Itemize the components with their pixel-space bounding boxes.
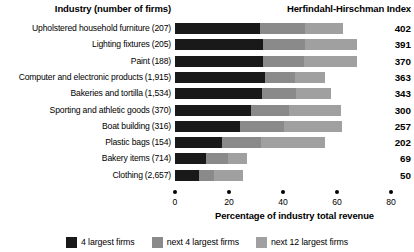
chart-legend: 4 largest firmsnext 4 largest firmsnext …	[0, 234, 414, 250]
x-tick-dot	[335, 190, 339, 194]
industry-name: Bakeries and tortilla	[70, 88, 142, 98]
hhi-industry-concentration-chart: Industry (number of firms) Herfindahl-Hi…	[0, 0, 414, 252]
hhi-value: 391	[300, 38, 414, 51]
industry-name: Plastic bags	[105, 137, 150, 147]
industry-label: Sporting and athletic goods(370)	[0, 104, 171, 117]
industry-label: Bakeries and tortilla(1,534)	[0, 87, 171, 100]
bar-segment-1	[175, 39, 263, 50]
legend-label: next 4 largest firms	[167, 237, 239, 247]
industry-label: Lighting fixtures(205)	[0, 38, 171, 51]
stacked-bar	[175, 170, 243, 181]
industry-label: Upholstered household furniture(207)	[0, 22, 171, 35]
bar-segment-1	[175, 23, 260, 34]
legend-item-2: next 4 largest firms	[152, 237, 239, 248]
x-tick-label: 40	[263, 197, 303, 207]
bar-segment-1	[175, 170, 199, 181]
industry-label: Plastic bags(154)	[0, 136, 171, 149]
hhi-value: 202	[300, 136, 414, 149]
hhi-value: 69	[300, 152, 414, 165]
x-tick-label: 20	[209, 197, 249, 207]
industry-label: Paint(188)	[0, 55, 171, 68]
x-tick-dot	[227, 190, 231, 194]
table-row: Plastic bags(154)202	[0, 136, 414, 149]
hhi-column-header: Herfindahl-Hirschman Index	[240, 3, 414, 14]
x-axis: 020406080 Percentage of industry total r…	[0, 190, 414, 224]
legend-label: 4 largest firms	[81, 237, 135, 247]
bar-segment-2	[251, 105, 289, 116]
x-tick-dot	[281, 190, 285, 194]
industry-label: Bakery items(714)	[0, 152, 171, 165]
hhi-value: 343	[300, 87, 414, 100]
table-row: Boat building(316)257	[0, 120, 414, 133]
x-tick-label: 60	[317, 197, 357, 207]
x-tick-label: 80	[371, 197, 411, 207]
bar-segment-2	[263, 39, 305, 50]
bar-segment-1	[175, 88, 262, 99]
legend-swatch	[66, 237, 77, 248]
industry-firm-count: (714)	[152, 153, 171, 163]
industry-firm-count: (2,657)	[145, 170, 171, 180]
table-row: Clothing(2,657)50	[0, 169, 414, 182]
table-row: Lighting fixtures(205)391	[0, 38, 414, 51]
bar-segment-2	[263, 56, 304, 67]
x-axis-label: Percentage of industry total revenue	[175, 210, 414, 221]
legend-swatch	[152, 237, 163, 248]
table-row: Bakeries and tortilla(1,534)343	[0, 87, 414, 100]
x-tick-dot	[389, 190, 393, 194]
table-row: Paint(188)370	[0, 55, 414, 68]
industry-name: Clothing	[112, 170, 142, 180]
bar-segment-1	[175, 153, 206, 164]
bar-segment-2	[199, 170, 214, 181]
hhi-value: 363	[300, 71, 414, 84]
industry-name: Lighting fixtures	[92, 39, 150, 49]
industry-firm-count: (188)	[152, 56, 171, 66]
bar-segment-2	[265, 72, 295, 83]
bar-segment-1	[175, 56, 263, 67]
industry-label: Computer and electronic products(1,915)	[0, 71, 171, 84]
industry-firm-count: (370)	[152, 105, 171, 115]
bar-segment-3	[214, 170, 243, 181]
legend-swatch	[256, 237, 267, 248]
bar-segment-1	[175, 137, 222, 148]
industry-column-header: Industry (number of firms)	[0, 3, 175, 14]
hhi-value: 402	[300, 22, 414, 35]
stacked-bar	[175, 153, 247, 164]
x-tick-label: 0	[155, 197, 195, 207]
industry-name: Bakery items	[102, 153, 150, 163]
industry-name: Upholstered household furniture	[32, 23, 150, 33]
bar-segment-3	[228, 153, 247, 164]
table-row: Computer and electronic products(1,915)3…	[0, 71, 414, 84]
table-row: Upholstered household furniture(207)402	[0, 22, 414, 35]
x-tick-dot	[173, 190, 177, 194]
hhi-value: 370	[300, 55, 414, 68]
industry-firm-count: (316)	[152, 121, 171, 131]
table-row: Bakery items(714)69	[0, 152, 414, 165]
industry-firm-count: (154)	[152, 137, 171, 147]
bar-segment-2	[222, 137, 261, 148]
industry-name: Computer and electronic products	[19, 72, 143, 82]
hhi-value: 257	[300, 120, 414, 133]
industry-label: Boat building(316)	[0, 120, 171, 133]
bar-segment-1	[175, 105, 251, 116]
industry-firm-count: (205)	[152, 39, 171, 49]
bar-segment-2	[262, 88, 296, 99]
industry-firm-count: (207)	[152, 23, 171, 33]
bar-segment-1	[175, 121, 240, 132]
bar-segment-2	[240, 121, 284, 132]
hhi-value: 50	[300, 169, 414, 182]
table-row: Sporting and athletic goods(370)300	[0, 104, 414, 117]
hhi-value: 300	[300, 104, 414, 117]
industry-firm-count: (1,915)	[145, 72, 171, 82]
industry-label: Clothing(2,657)	[0, 169, 171, 182]
industry-name: Boat building	[102, 121, 150, 131]
bar-segment-2	[206, 153, 228, 164]
bar-segment-2	[260, 23, 305, 34]
industry-name: Sporting and athletic goods	[50, 105, 150, 115]
legend-item-3: next 12 largest firms	[256, 237, 348, 248]
legend-item-1: 4 largest firms	[66, 237, 135, 248]
industry-firm-count: (1,534)	[145, 88, 171, 98]
legend-label: next 12 largest firms	[271, 237, 348, 247]
industry-name: Paint	[131, 56, 150, 66]
bar-segment-1	[175, 72, 265, 83]
